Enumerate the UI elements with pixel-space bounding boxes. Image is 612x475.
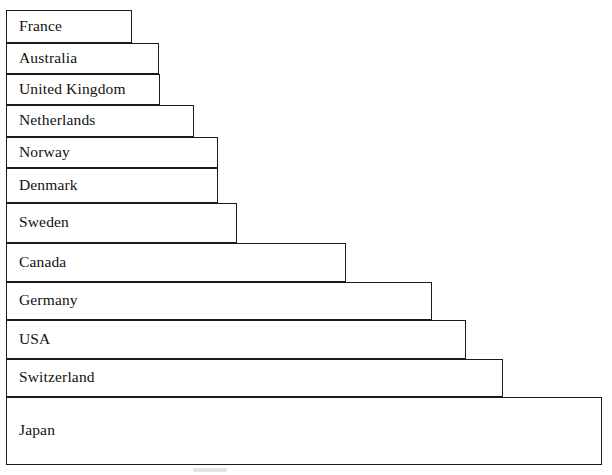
bar-netherlands: Netherlands bbox=[6, 105, 194, 137]
bar-united-kingdom: United Kingdom bbox=[6, 74, 160, 105]
bar-label: Norway bbox=[7, 144, 70, 160]
bar-canada: Canada bbox=[6, 243, 346, 282]
horizontal-bar-chart: FranceAustraliaUnited KingdomNetherlands… bbox=[0, 0, 612, 475]
bar-denmark: Denmark bbox=[6, 168, 218, 203]
bar-label: France bbox=[7, 18, 62, 34]
bar-norway: Norway bbox=[6, 137, 218, 168]
bar-switzerland: Switzerland bbox=[6, 359, 503, 397]
bar-label: Canada bbox=[7, 254, 66, 270]
bar-label: Netherlands bbox=[7, 112, 96, 128]
bar-label: Denmark bbox=[7, 177, 78, 193]
bar-label: Germany bbox=[7, 292, 78, 308]
bar-label: United Kingdom bbox=[7, 81, 126, 97]
bar-label: Japan bbox=[7, 422, 55, 438]
bar-france: France bbox=[6, 10, 132, 43]
bar-label: Switzerland bbox=[7, 369, 95, 385]
bar-usa: USA bbox=[6, 320, 466, 359]
bar-sweden: Sweden bbox=[6, 203, 237, 243]
bar-label: USA bbox=[7, 331, 50, 347]
bar-germany: Germany bbox=[6, 282, 432, 320]
bar-japan: Japan bbox=[6, 397, 602, 465]
bar-australia: Australia bbox=[6, 43, 159, 74]
bar-label: Sweden bbox=[7, 214, 69, 230]
baseline-artifact bbox=[193, 468, 227, 472]
bar-label: Australia bbox=[7, 50, 77, 66]
